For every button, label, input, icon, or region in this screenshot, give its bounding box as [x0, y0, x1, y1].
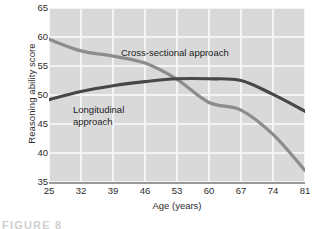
x-tick-label: 60 — [194, 185, 224, 196]
x-axis-line — [49, 182, 305, 184]
y-tick-label: 60 — [28, 32, 48, 42]
y-tick-label: 45 — [28, 119, 48, 129]
x-tick-label: 74 — [258, 185, 288, 196]
y-tick-label: 50 — [28, 90, 48, 100]
x-tick-label: 67 — [226, 185, 256, 196]
x-tick-label: 81 — [290, 185, 320, 196]
y-tick-label: 40 — [28, 148, 48, 158]
annotation-longitudinal: Longitudinal approach — [73, 104, 124, 127]
x-tick-label: 46 — [130, 185, 160, 196]
annotation-cross-sectional: Cross-sectional approach — [121, 47, 229, 59]
series-lines — [49, 8, 305, 182]
plot-area: Cross-sectional approach Longitudinal ap… — [49, 8, 305, 182]
figure-caption: FIGURE 8 — [2, 219, 62, 229]
x-axis-title: Age (years) — [49, 200, 305, 211]
x-tick-label: 32 — [66, 185, 96, 196]
x-tick-label: 25 — [34, 185, 64, 196]
x-tick-label: 39 — [98, 185, 128, 196]
x-axis-tick-labels: 253239465360677481 — [49, 185, 305, 199]
annotation-longitudinal-line2: approach — [73, 116, 113, 127]
y-axis-tick-labels: 65605550454035 — [28, 8, 48, 182]
figure-container: Reasoning ability score 65605550454035 C… — [0, 0, 323, 229]
annotation-longitudinal-line1: Longitudinal — [73, 104, 124, 115]
y-tick-label: 55 — [28, 61, 48, 71]
y-tick-label: 65 — [28, 3, 48, 13]
x-tick-label: 53 — [162, 185, 192, 196]
